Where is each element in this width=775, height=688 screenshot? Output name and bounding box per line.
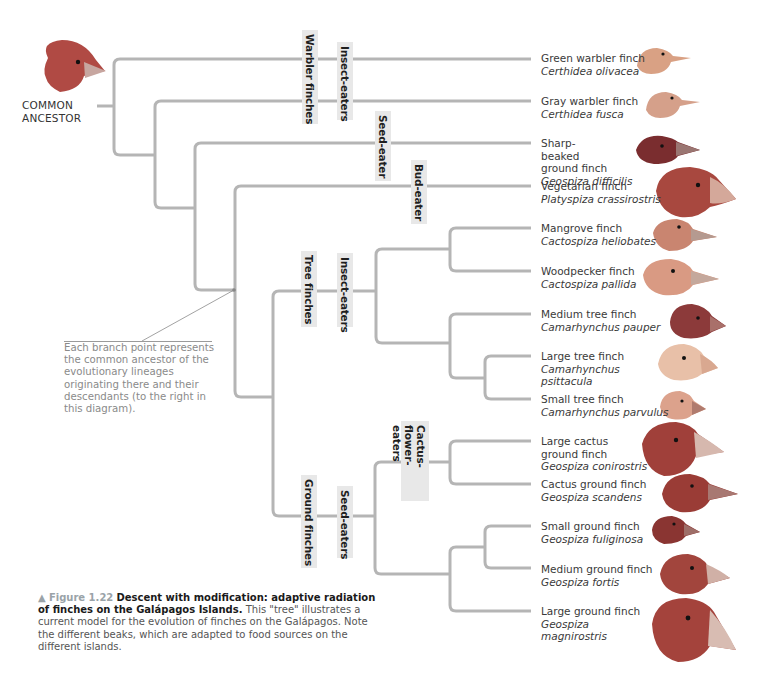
species-large-ground-finch: Large ground finch Geospiza magnirostris [541,605,627,643]
species-gray-warbler-finch: Gray warbler finch Certhidea fusca [541,95,671,120]
branch-node-5 [273,291,376,516]
label-warbler-insect-eaters: Insect-eaters [337,42,353,120]
species-cactus-ground-finch: Cactus ground finch Geospiza scandens [541,478,671,503]
branch-tree-finches [376,249,450,343]
species-medium-tree-finch: Medium tree finch Camarhynchus pauper [541,308,671,333]
label-cactus-flower-eaters: Cactus-flower-eaters [401,421,429,501]
bird-cactus-ground-icon [662,474,738,512]
species-mangrove-finch: Mangrove finch Cactospiza heliobates [541,222,671,247]
species-woodpecker-finch: Woodpecker finch Cactospiza pallida [541,265,671,290]
branch-small-medium-ground [485,526,531,568]
species-small-ground-finch: Small ground finch Geospiza fuliginosa [541,520,671,545]
ancestor-bird-icon [44,40,106,92]
common-ancestor-label: COMMON ANCESTOR [22,99,81,125]
species-medium-ground-finch: Medium ground finch Geospiza fortis [541,563,671,588]
species-small-tree-finch: Small tree finch Camarhynchus parvulus [541,393,671,418]
branch-mangrove-woodpecker [450,228,531,271]
bird-medium-tree-icon [670,304,726,338]
label-tree-finches: Tree finches [301,251,317,327]
branch-medium-tree [450,314,531,378]
species-large-cactus-ground-finch: Large cactus ground finch Geospiza conir… [541,435,611,473]
branch-large-ground [450,547,531,611]
label-warbler-finches: Warbler finches [302,30,318,124]
species-vegetarian-finch: Vegetarian finch Platyspiza crassirostri… [541,180,671,205]
figure-caption: ▲ Figure 1.22 Descent with modification:… [38,592,383,653]
branch-point-annotation: Each branch point represents the common … [64,342,219,415]
caption-figure-number: Figure 1.22 [49,592,113,603]
label-seed-eaters: Seed-eaters [337,486,353,558]
label-seed-eater: Seed-eater [375,111,391,181]
branch-node-1 [114,59,531,155]
species-large-tree-finch: Large tree finch Camarhynchus psittacula [541,350,671,388]
label-bud-eater: Bud-eater [411,160,427,224]
branch-cactus-eaters [450,441,531,484]
caption-marker: ▲ [38,592,46,603]
label-tree-insect-eaters: Insect-eaters [337,253,353,327]
annotation-pointer [142,290,234,341]
species-green-warbler-finch: Green warbler finch Certhidea olivacea [541,52,671,77]
branch-large-small-tree [485,356,531,399]
branch-node-3 [195,143,531,290]
bird-sharp-beaked-icon [636,136,700,164]
branch-point-marker [232,288,236,292]
label-ground-finches: Ground finches [301,475,317,568]
